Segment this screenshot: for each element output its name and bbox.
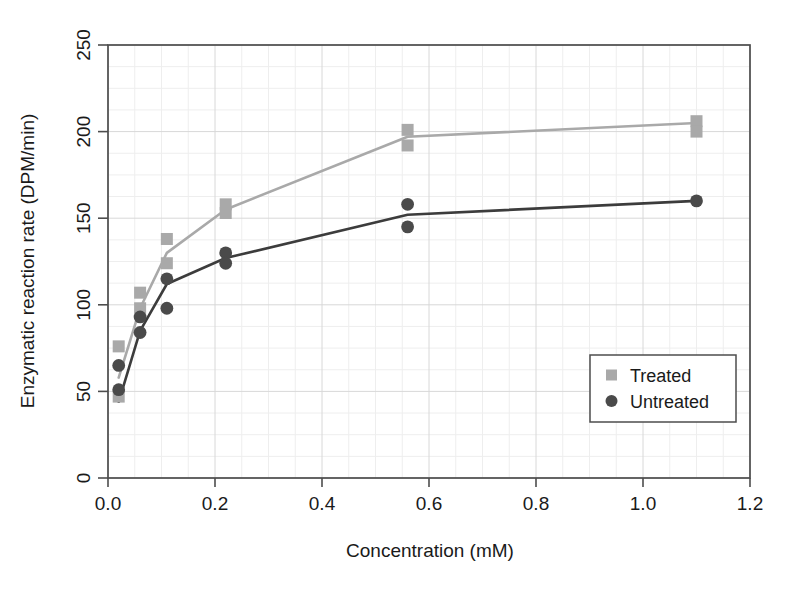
legend-marker-untreated [606, 395, 618, 407]
data-point-untreated [160, 302, 173, 315]
data-point-untreated [401, 220, 414, 233]
data-point-untreated [690, 194, 703, 207]
x-axis-title: Concentration (mM) [346, 540, 514, 561]
y-tick-label: 150 [73, 202, 94, 234]
y-tick-label: 50 [73, 381, 94, 402]
y-axis-title: Enzymatic reaction rate (DPM/min) [17, 114, 38, 409]
enzyme-kinetics-chart: 0.00.20.40.60.81.01.2 050100150200250 Tr… [0, 0, 791, 597]
data-point-treated [220, 207, 232, 219]
chart-container: 0.00.20.40.60.81.01.2 050100150200250 Tr… [0, 0, 791, 597]
y-tick-label: 200 [73, 116, 94, 148]
y-tick-label: 100 [73, 289, 94, 321]
data-point-untreated [219, 257, 232, 270]
data-point-treated [691, 115, 703, 127]
data-point-untreated [112, 383, 125, 396]
x-tick-label: 1.0 [630, 493, 656, 514]
x-tick-label: 1.2 [737, 493, 763, 514]
data-point-treated [402, 124, 414, 136]
x-tick-label: 0.2 [202, 493, 228, 514]
x-tick-label: 0.4 [309, 493, 336, 514]
x-tick-label: 0.6 [416, 493, 442, 514]
y-tick-label: 250 [73, 29, 94, 61]
x-tick-label: 0.0 [95, 493, 121, 514]
data-point-treated [134, 287, 146, 299]
data-point-untreated [112, 359, 125, 372]
x-tick-label: 0.8 [523, 493, 549, 514]
data-point-treated [113, 340, 125, 352]
legend-label-treated: Treated [630, 366, 691, 386]
data-point-treated [691, 126, 703, 138]
y-tick-label: 0 [73, 473, 94, 484]
data-point-untreated [160, 272, 173, 285]
data-point-treated [402, 139, 414, 151]
legend-marker-treated [606, 370, 617, 381]
data-point-untreated [134, 326, 147, 339]
data-point-treated [161, 257, 173, 269]
data-point-treated [161, 233, 173, 245]
data-point-untreated [401, 198, 414, 211]
data-point-untreated [134, 311, 147, 324]
legend: TreatedUntreated [590, 355, 736, 422]
legend-label-untreated: Untreated [630, 392, 709, 412]
